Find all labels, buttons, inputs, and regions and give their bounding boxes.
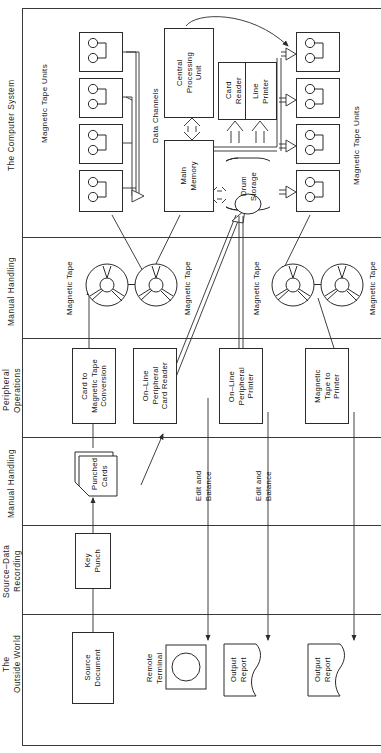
flow-label-edit-and-balance-1: Edit and Balance	[194, 458, 214, 514]
punched-cards-label: Punched Cards	[90, 462, 108, 490]
band-label-manual-handling-2: Manual Handling	[6, 444, 20, 522]
tape-unit-6[interactable]	[296, 78, 340, 118]
band-label-computer-system: The Computer System	[6, 40, 20, 210]
tape-to-printer-label: Magnetic Tape to Printer	[313, 369, 342, 403]
key-punch-label: Key Punch	[83, 549, 102, 572]
tape-unit-7[interactable]	[296, 124, 340, 164]
label-magnetic-tape-units-right: Magnetic Tape Units	[352, 86, 364, 206]
reel-label-2: Magnetic Tape	[183, 256, 195, 320]
card-to-magnetic-tape-conversion[interactable]: Card to Magnetic Tape Conversion	[72, 348, 116, 424]
tape-unit-1[interactable]	[79, 32, 123, 72]
line-printer[interactable]: Line Printer	[245, 62, 277, 120]
reel-label-3: Magnetic Tape	[252, 256, 264, 320]
key-punch[interactable]: Key Punch	[75, 533, 111, 589]
band-label-manual-handling-1: Manual Handling	[6, 246, 20, 336]
band-label-peripheral-operations: Peripheral Operations	[1, 348, 21, 432]
magnetic-tape-reel-3[interactable]	[270, 262, 316, 308]
reel-link-1	[128, 283, 135, 286]
on-line-peripheral-printer[interactable]: On–Line Peripheral Printer	[219, 348, 263, 424]
output-report-2[interactable]: Output Report	[306, 642, 354, 700]
reel-label-4: Magnetic Tape	[368, 256, 380, 320]
band-label-outside-world: The Outside World	[1, 624, 21, 704]
output-report-1[interactable]: Output Report	[222, 642, 270, 700]
line-printer-label: Line Printer	[251, 79, 270, 104]
remote-terminal[interactable]	[165, 644, 207, 690]
band-divider-5	[22, 614, 381, 615]
flow-label-edit-and-balance-2: Edit and Balance	[254, 458, 274, 514]
online-printer-label: On–Line Peripheral Printer	[227, 367, 256, 405]
central-processing-unit[interactable]: Central Processing Unit	[164, 28, 214, 118]
punched-cards[interactable]: Punched Cards	[69, 448, 125, 500]
band-divider-2	[22, 338, 381, 339]
on-line-peripheral-card-reader[interactable]: On–Line Peripheral Card Reader	[133, 348, 177, 424]
label-data-channels: Data Channels	[151, 76, 163, 156]
band-divider-4	[22, 525, 381, 526]
band-divider-1	[22, 237, 381, 238]
magnetic-tape-reel-1[interactable]	[84, 262, 130, 308]
tape-unit-5[interactable]	[296, 32, 340, 72]
label-magnetic-tape-units-left: Magnetic Tape Units	[40, 44, 52, 164]
source-document-label: Source Document	[83, 649, 102, 686]
tape-unit-4[interactable]	[79, 170, 123, 212]
cpu-label: Central Processing Unit	[175, 52, 204, 93]
band-spine	[22, 8, 23, 745]
drum-storage-label: Drum Storage	[239, 166, 257, 206]
band-divider-top	[22, 8, 381, 9]
drum-storage[interactable]: Drum Storage	[226, 148, 270, 220]
card-to-tape-label: Card to Magnetic Tape Conversion	[80, 359, 109, 413]
card-reader-label: Card Reader	[224, 77, 243, 104]
band-divider-3	[22, 437, 381, 438]
main-memory-label: Main Memory	[179, 161, 198, 191]
magnetic-tape-reel-2[interactable]	[133, 262, 179, 308]
tape-unit-8[interactable]	[296, 170, 340, 212]
reel-label-1: Magnetic Tape	[65, 256, 77, 320]
main-memory[interactable]: Main Memory	[164, 140, 214, 212]
band-label-source-data-recording: Source–Data Recording	[1, 532, 21, 610]
online-card-reader-label: On–Line Peripheral Card Reader	[141, 362, 170, 409]
remote-terminal-label: Remote Terminal	[145, 642, 165, 694]
band-divider-bottom	[22, 745, 381, 746]
diagram-canvas: The Computer System Manual Handling Peri…	[0, 0, 381, 753]
output-report-2-label: Output Report	[313, 654, 331, 686]
magnetic-tape-reel-4[interactable]	[319, 262, 365, 308]
magnetic-tape-to-printer[interactable]: Magnetic Tape to Printer	[305, 348, 349, 424]
source-document[interactable]: Source Document	[72, 632, 114, 704]
tape-unit-3[interactable]	[79, 124, 123, 164]
output-report-1-label: Output Report	[229, 654, 247, 686]
tape-unit-2[interactable]	[79, 78, 123, 118]
